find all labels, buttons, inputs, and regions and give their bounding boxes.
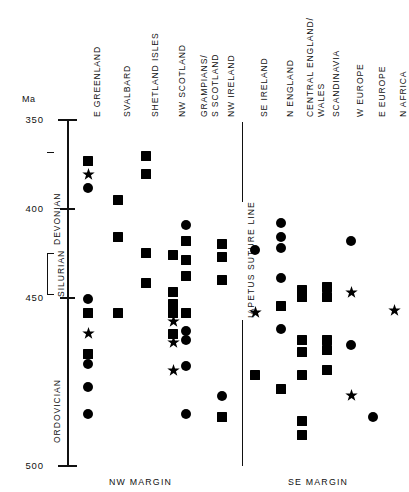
data-point-square xyxy=(217,239,227,249)
data-point-circle xyxy=(346,236,356,246)
data-point-square xyxy=(181,308,191,318)
data-point-square xyxy=(297,430,307,440)
data-point-star xyxy=(345,389,358,402)
data-point-square xyxy=(297,292,307,302)
data-point-square xyxy=(297,416,307,426)
data-point-square xyxy=(141,169,151,179)
data-point-square xyxy=(322,292,332,302)
data-point-square xyxy=(141,151,151,161)
data-point-square xyxy=(83,349,93,359)
data-point-star xyxy=(167,364,180,377)
data-point-square xyxy=(276,301,286,311)
data-point-square xyxy=(217,252,227,262)
data-point-square xyxy=(250,370,260,380)
data-point-circle xyxy=(83,183,93,193)
data-point-square xyxy=(113,195,123,205)
data-point-star xyxy=(82,327,95,340)
data-point-circle xyxy=(276,232,286,242)
data-point-circle xyxy=(83,359,93,369)
data-point-circle xyxy=(276,324,286,334)
data-point-star xyxy=(345,286,358,299)
data-point-square xyxy=(297,335,307,345)
data-point-circle xyxy=(276,218,286,228)
data-point-circle xyxy=(83,294,93,304)
data-point-square xyxy=(322,335,332,345)
data-point-square xyxy=(113,232,123,242)
data-point-circle xyxy=(250,245,260,255)
data-point-square xyxy=(297,370,307,380)
data-point-square xyxy=(322,282,332,292)
data-point-square xyxy=(217,275,227,285)
data-point-circle xyxy=(346,340,356,350)
data-point-circle xyxy=(276,273,286,283)
data-point-circle xyxy=(83,409,93,419)
data-point-circle xyxy=(181,409,191,419)
data-point-star xyxy=(388,304,401,317)
data-point-circle xyxy=(276,243,286,253)
data-point-square xyxy=(322,365,332,375)
data-point-square xyxy=(276,384,286,394)
data-point-circle xyxy=(181,335,191,345)
data-point-square xyxy=(168,250,178,260)
data-point-circle xyxy=(181,220,191,230)
data-point-square xyxy=(168,287,178,297)
data-point-square xyxy=(217,412,227,422)
data-point-square xyxy=(297,347,307,357)
data-point-square xyxy=(181,236,191,246)
data-point-square xyxy=(322,345,332,355)
data-point-star xyxy=(167,336,180,349)
data-point-star xyxy=(167,315,180,328)
data-point-square xyxy=(141,248,151,258)
data-point-circle xyxy=(368,412,378,422)
data-point-square xyxy=(83,308,93,318)
data-point-circle xyxy=(181,361,191,371)
data-point-circle xyxy=(217,391,227,401)
data-point-square xyxy=(113,308,123,318)
data-point-square xyxy=(181,255,191,265)
data-point-circle xyxy=(83,382,93,392)
data-point-square xyxy=(83,156,93,166)
data-point-star xyxy=(82,168,95,181)
data-point-square xyxy=(181,271,191,281)
data-point-square xyxy=(141,278,151,288)
data-point-star xyxy=(249,306,262,319)
